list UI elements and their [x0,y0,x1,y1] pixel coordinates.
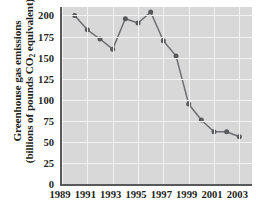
data-point-marker [148,10,153,15]
horizontal-gridline [62,100,252,101]
x-axis-tick-label: 1993 [100,189,121,200]
horizontal-gridline [62,58,252,59]
horizontal-gridline [62,163,252,164]
y-axis-tick-label: 200 [38,10,54,21]
plot-area [60,7,252,186]
plot-inner [62,7,252,184]
x-axis-tick-labels: 19891991199319951997199920012003 [0,189,256,213]
horizontal-gridline [62,79,252,80]
y-axis-tick-label: 0 [49,179,54,190]
y-axis-tick-label: 25 [43,157,54,168]
y-axis-tick-label: 100 [38,94,54,105]
vertical-gridline [214,7,215,184]
vertical-gridline [138,7,139,184]
y-axis-tick-label: 50 [43,136,54,147]
vertical-gridline [113,7,114,184]
y-axis-tick-label: 125 [38,73,54,84]
x-axis-tick-label: 2003 [227,189,248,200]
x-axis-tick-label: 1995 [125,189,146,200]
y-axis-tick-label: 175 [38,31,54,42]
x-axis-tick-label: 2001 [201,189,222,200]
vertical-gridline [62,7,63,184]
y-axis-tick-label: 75 [43,115,54,126]
vertical-gridline [239,7,240,184]
horizontal-gridline [62,15,252,16]
data-point-marker [224,129,229,134]
chart-figure: Greenhouse gas emissions (billions of po… [0,0,256,213]
vertical-gridline [87,7,88,184]
x-axis-tick-label: 1997 [151,189,172,200]
vertical-gridline [189,7,190,184]
horizontal-gridline [62,142,252,143]
x-axis-tick-label: 1989 [49,189,70,200]
y-axis-tick-labels: 0255075100125150175200 [0,0,58,213]
line-series [62,7,252,184]
horizontal-gridline [62,121,252,122]
data-point-marker [123,16,128,21]
vertical-gridline [163,7,164,184]
x-axis-tick-label: 1991 [75,189,96,200]
y-axis-tick-label: 150 [38,52,54,63]
horizontal-gridline [62,37,252,38]
x-axis-tick-label: 1999 [176,189,197,200]
